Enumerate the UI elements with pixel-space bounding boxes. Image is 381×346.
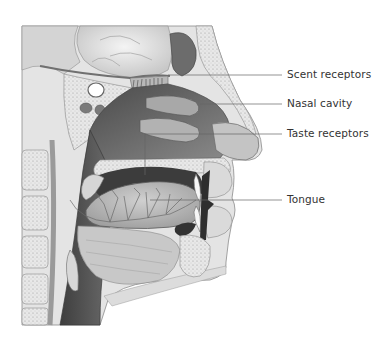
mandible: [180, 235, 210, 277]
ethmoid-cell: [80, 103, 92, 113]
cervical-spine: [22, 150, 48, 325]
label-nasal-cavity: Nasal cavity: [287, 97, 352, 109]
label-taste-receptors: Taste receptors: [287, 127, 369, 139]
label-scent-receptors: Scent receptors: [287, 68, 371, 80]
skull-back: [22, 26, 80, 74]
label-tongue: Tongue: [287, 193, 325, 205]
sphenoid-sinus: [88, 83, 104, 97]
anatomy-illustration: [0, 0, 381, 346]
